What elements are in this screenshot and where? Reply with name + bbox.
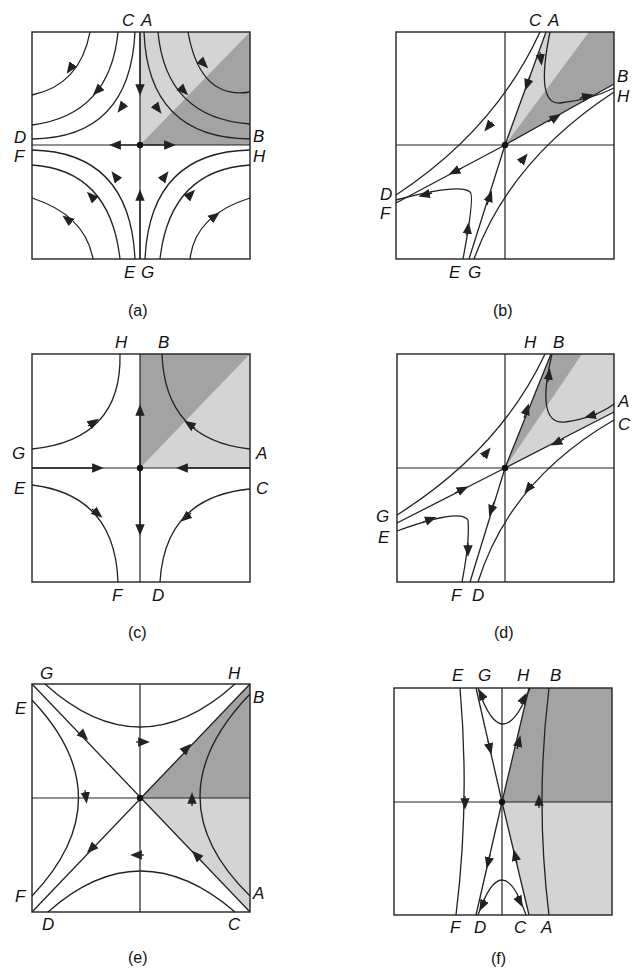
saddle-point [137,142,143,148]
label-B: B [617,67,628,86]
phase-portrait-figure: C A D F B H E G (a) [0,0,639,973]
label-E: E [452,666,464,685]
trajectory [32,32,90,95]
label-G: G [376,507,389,526]
label-B: B [253,688,264,707]
label-D: D [42,915,54,934]
label-F: F [451,586,463,605]
caption: (a) [128,302,148,319]
label-C: C [228,915,241,934]
label-E: E [14,479,26,498]
label-G: G [468,263,481,282]
caption: (f) [491,950,506,967]
label-C: C [514,918,527,937]
panel-d: H B G E A C F D (d) [376,333,631,641]
label-E: E [124,263,136,282]
label-B: B [253,127,264,146]
label-C: C [529,11,542,30]
label-C: C [618,415,631,434]
label-A: A [617,392,629,411]
label-E: E [378,528,390,547]
label-D: D [472,586,484,605]
label-G: G [141,263,154,282]
label-H: H [517,666,530,685]
label-H: H [115,333,128,352]
panel-f: E G H B F D C A (f) [394,666,612,967]
label-A: A [140,11,152,30]
panel-c: H B G E A C F D (c) [12,333,269,641]
panel-b: C A D F B H E G (b) [380,11,630,319]
caption: (b) [493,302,513,319]
label-B: B [158,333,169,352]
label-F: F [15,887,27,906]
label-B: B [550,666,561,685]
label-F: F [380,204,392,223]
panel-a: C A D F B H E G (a) [14,11,266,319]
label-A: A [547,11,559,30]
caption: (c) [128,624,147,641]
label-G: G [478,666,491,685]
label-A: A [252,884,264,903]
label-H: H [253,147,266,166]
label-H: H [524,333,537,352]
label-G: G [40,664,53,683]
label-H: H [617,87,630,106]
caption: (e) [128,949,148,966]
label-E: E [449,263,461,282]
label-C: C [256,479,269,498]
label-F: F [14,147,26,166]
caption: (d) [494,624,514,641]
label-H: H [228,664,241,683]
label-A: A [255,444,267,463]
label-D: D [380,185,392,204]
label-D: D [152,586,164,605]
label-C: C [122,11,135,30]
panel-e: G H E F B A D C (e) [15,664,264,966]
label-D: D [14,128,26,147]
label-A: A [540,918,552,937]
label-F: F [112,586,124,605]
label-E: E [15,699,27,718]
label-B: B [553,333,564,352]
label-G: G [12,444,25,463]
label-D: D [474,918,486,937]
label-F: F [450,918,462,937]
